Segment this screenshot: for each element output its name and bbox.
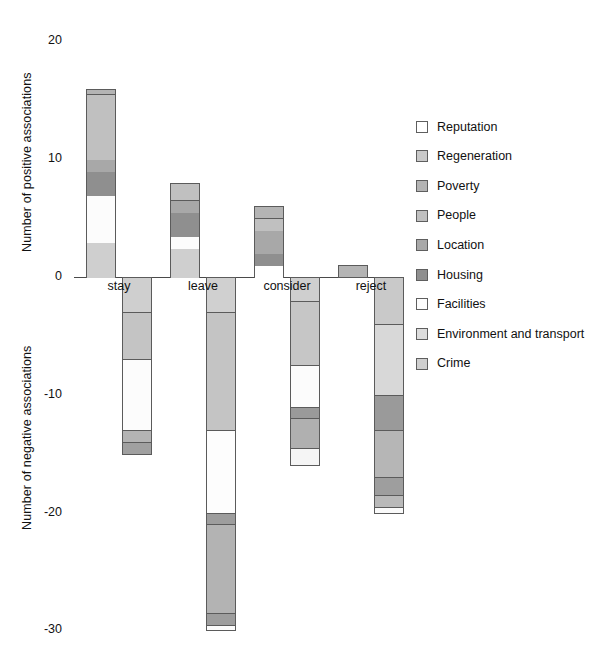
legend-label: Facilities bbox=[437, 298, 486, 311]
bar-segment[interactable] bbox=[206, 524, 236, 613]
bar-segment[interactable] bbox=[254, 253, 284, 266]
legend-item-facilities[interactable]: Facilities bbox=[416, 290, 596, 320]
x-category-label-reject: reject bbox=[326, 279, 416, 293]
bar-segment[interactable] bbox=[86, 195, 116, 243]
legend-swatch-icon bbox=[416, 180, 428, 192]
bar-segment[interactable] bbox=[86, 242, 116, 278]
legend-swatch-icon bbox=[416, 150, 428, 162]
bar-segment[interactable] bbox=[374, 395, 404, 431]
legend-item-reputation[interactable]: Reputation bbox=[416, 112, 596, 142]
legend-label: Regeneration bbox=[437, 150, 512, 163]
x-category-label-stay: stay bbox=[74, 279, 164, 293]
bar-segment[interactable] bbox=[122, 359, 152, 431]
legend-label: Housing bbox=[437, 269, 483, 282]
legend-label: Crime bbox=[437, 357, 470, 370]
legend-swatch-icon bbox=[416, 121, 428, 133]
bar-segment[interactable] bbox=[254, 206, 284, 219]
legend-item-environment-and-transport[interactable]: Environment and transport bbox=[416, 319, 596, 349]
chart-figure: Number of positive associations Number o… bbox=[0, 0, 601, 650]
bar-segment[interactable] bbox=[290, 301, 320, 367]
bar-segment[interactable] bbox=[170, 183, 200, 202]
legend-swatch-icon bbox=[416, 269, 428, 281]
legend-item-housing[interactable]: Housing bbox=[416, 260, 596, 290]
legend-item-people[interactable]: People bbox=[416, 201, 596, 231]
bar-segment[interactable] bbox=[374, 477, 404, 496]
legend-label: Environment and transport bbox=[437, 328, 584, 341]
bar-segment[interactable] bbox=[206, 430, 236, 513]
chart-legend: ReputationRegenerationPovertyPeopleLocat… bbox=[416, 112, 596, 378]
bar-segment[interactable] bbox=[254, 218, 284, 231]
x-category-label-consider: consider bbox=[242, 279, 332, 293]
bar-segment[interactable] bbox=[170, 236, 200, 249]
legend-item-location[interactable]: Location bbox=[416, 230, 596, 260]
bar-reject-negative[interactable] bbox=[374, 0, 404, 650]
legend-item-crime[interactable]: Crime bbox=[416, 349, 596, 379]
bar-consider-negative[interactable] bbox=[290, 0, 320, 650]
bar-segment[interactable] bbox=[374, 507, 404, 514]
bar-segment[interactable] bbox=[86, 89, 116, 96]
bar-segment[interactable] bbox=[374, 324, 404, 396]
legend-item-regeneration[interactable]: Regeneration bbox=[416, 142, 596, 172]
legend-swatch-icon bbox=[416, 298, 428, 310]
bar-leave-positive[interactable] bbox=[170, 0, 200, 650]
legend-label: Poverty bbox=[437, 180, 479, 193]
bar-segment[interactable] bbox=[374, 430, 404, 478]
bar-segment[interactable] bbox=[254, 230, 284, 255]
legend-label: People bbox=[437, 209, 476, 222]
x-category-label-leave: leave bbox=[158, 279, 248, 293]
bar-stay-negative[interactable] bbox=[122, 0, 152, 650]
bar-segment[interactable] bbox=[290, 418, 320, 448]
bar-segment[interactable] bbox=[170, 200, 200, 213]
bar-segment[interactable] bbox=[290, 448, 320, 467]
legend-swatch-icon bbox=[416, 358, 428, 370]
bar-segment[interactable] bbox=[290, 365, 320, 407]
legend-item-poverty[interactable]: Poverty bbox=[416, 171, 596, 201]
legend-swatch-icon bbox=[416, 239, 428, 251]
bar-segment[interactable] bbox=[170, 248, 200, 278]
bar-segment[interactable] bbox=[170, 212, 200, 237]
legend-swatch-icon bbox=[416, 328, 428, 340]
bar-segment[interactable] bbox=[122, 312, 152, 360]
bar-consider-positive[interactable] bbox=[254, 0, 284, 650]
bar-segment[interactable] bbox=[338, 265, 368, 278]
bar-segment[interactable] bbox=[206, 312, 236, 431]
bar-segment[interactable] bbox=[86, 94, 116, 160]
legend-label: Reputation bbox=[437, 121, 497, 134]
bar-segment[interactable] bbox=[122, 442, 152, 455]
bar-stay-positive[interactable] bbox=[86, 0, 116, 650]
bar-segment[interactable] bbox=[86, 159, 116, 172]
bar-segment[interactable] bbox=[254, 265, 284, 278]
bar-leave-negative[interactable] bbox=[206, 0, 236, 650]
legend-label: Location bbox=[437, 239, 484, 252]
bar-segment[interactable] bbox=[86, 171, 116, 196]
bar-reject-positive[interactable] bbox=[338, 0, 368, 650]
legend-swatch-icon bbox=[416, 210, 428, 222]
bar-segment[interactable] bbox=[206, 625, 236, 632]
